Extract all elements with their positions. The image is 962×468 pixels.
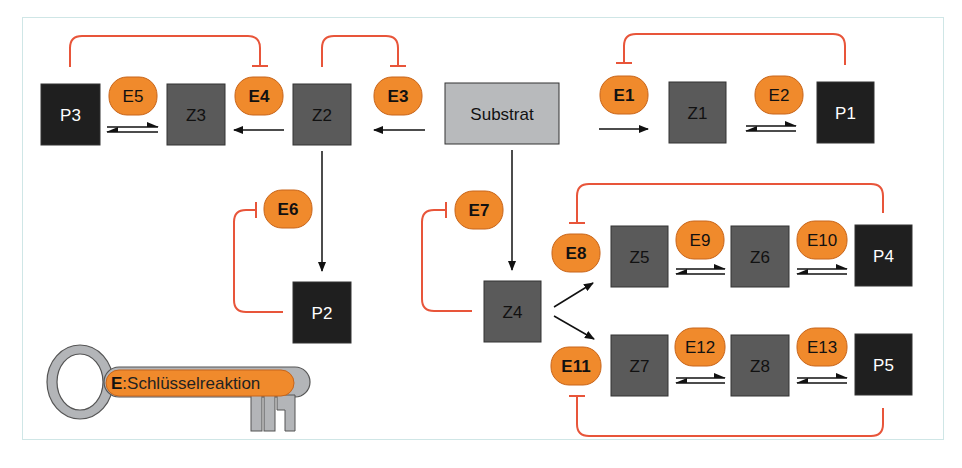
enzyme-label: E1 — [614, 86, 635, 105]
node-label: P1 — [835, 104, 856, 123]
node-p3: P3 — [41, 84, 100, 145]
inhibition-p1-e1 — [624, 34, 845, 65]
enzyme-e5: E5 — [109, 77, 157, 115]
node-label: P4 — [873, 247, 894, 266]
inhibition-p5-e11 — [577, 396, 883, 436]
node-z1: Z1 — [669, 82, 726, 143]
node-label: Z2 — [312, 106, 332, 125]
enzyme-e11: E11 — [551, 347, 601, 385]
enzyme-e1: E1 — [600, 76, 648, 114]
node-label: P2 — [312, 304, 333, 323]
arrow-z4-z5 — [554, 283, 593, 307]
enzyme-e8: E8 — [552, 234, 600, 272]
enzyme-label: E10 — [807, 231, 837, 250]
node-z7: Z7 — [611, 335, 668, 396]
enzyme-e4: E4 — [235, 77, 283, 115]
node-label: Z5 — [630, 248, 650, 267]
enzyme-label: E12 — [685, 338, 715, 357]
enzyme-label: E8 — [566, 244, 587, 263]
metabolite-nodes: P3Z3Z2SubstratZ1P1P2Z4Z5Z6P4Z7Z8P5 — [41, 82, 912, 396]
enzyme-label: E4 — [249, 87, 270, 106]
enzyme-e9: E9 — [676, 221, 724, 259]
enzyme-label: E13 — [807, 338, 837, 357]
node-label: Z4 — [503, 303, 523, 322]
arrow-z4-z7 — [554, 316, 594, 339]
node-p4: P4 — [855, 225, 912, 286]
node-p1: P1 — [817, 82, 874, 143]
node-label: Z8 — [750, 357, 770, 376]
node-label: Z7 — [630, 357, 650, 376]
node-label: Substrat — [470, 105, 534, 124]
node-p5: P5 — [855, 334, 912, 395]
enzyme-e12: E12 — [675, 328, 725, 366]
enzyme-e3: E3 — [374, 77, 422, 115]
node-label: Z1 — [688, 104, 708, 123]
node-z6: Z6 — [731, 226, 789, 287]
inhibition-p3-e4 — [70, 36, 260, 67]
node-label: Z3 — [186, 106, 206, 125]
enzyme-label: E5 — [123, 87, 144, 106]
node-label: P3 — [60, 106, 81, 125]
metabolic-pathway-diagram: P3Z3Z2SubstratZ1P1P2Z4Z5Z6P4Z7Z8P5 E1E2E… — [0, 0, 962, 468]
key-legend: E:Schlüsselreaktion — [47, 345, 310, 431]
enzyme-label: E3 — [388, 87, 409, 106]
enzyme-e10: E10 — [797, 221, 847, 259]
enzyme-label: E7 — [469, 201, 490, 220]
node-z4: Z4 — [484, 281, 541, 342]
inhibition-z2-e3 — [322, 36, 398, 67]
node-p2: P2 — [293, 282, 351, 343]
node-z5: Z5 — [611, 226, 668, 287]
enzyme-e6: E6 — [264, 190, 312, 228]
node-substrat: Substrat — [445, 83, 559, 144]
node-z8: Z8 — [731, 335, 789, 396]
enzyme-e2: E2 — [755, 76, 803, 114]
enzyme-label: E2 — [769, 86, 790, 105]
node-label: Z6 — [750, 248, 770, 267]
enzyme-label: E11 — [561, 357, 590, 376]
node-label: P5 — [873, 356, 894, 375]
inhibition-p4-e8 — [577, 184, 883, 223]
key-legend-label: E:Schlüsselreaktion — [111, 374, 260, 393]
enzyme-label: E6 — [278, 200, 299, 219]
node-z2: Z2 — [293, 84, 351, 145]
enzyme-e13: E13 — [797, 328, 847, 366]
enzyme-e7: E7 — [455, 191, 503, 229]
node-z3: Z3 — [167, 84, 225, 145]
enzyme-label: E9 — [690, 231, 711, 250]
